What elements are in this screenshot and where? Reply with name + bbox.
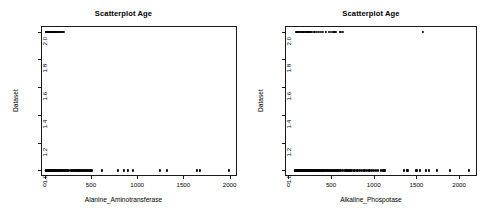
x-axis-title-left: Alanine_Aminotransferase bbox=[0, 196, 247, 203]
y-tick-left bbox=[38, 170, 41, 171]
x-tick-label-left: 1000 bbox=[130, 181, 144, 188]
x-tick-right bbox=[374, 176, 375, 179]
y-tick-left bbox=[38, 87, 41, 88]
y-tick-label-left: 2.0 bbox=[41, 36, 48, 45]
x-tick-right bbox=[416, 176, 417, 179]
chart-panel-right: Scatterplot Age Alkaline_Phospotase Data… bbox=[247, 0, 495, 214]
y-tick-label-right: 1.2 bbox=[285, 147, 292, 156]
y-tick-label-right: 1.0 bbox=[285, 175, 292, 184]
y-axis-title-left: Dataset bbox=[12, 89, 19, 112]
y-tick-label-right: 1.8 bbox=[285, 64, 292, 73]
y-tick-label-left: 1.0 bbox=[41, 175, 48, 184]
y-tick-left bbox=[38, 115, 41, 116]
y-tick-label-left: 1.2 bbox=[41, 147, 48, 156]
y-tick-label-left: 1.8 bbox=[41, 64, 48, 73]
x-tick-label-left: 1500 bbox=[176, 181, 190, 188]
y-tick-label-right: 2.0 bbox=[285, 36, 292, 45]
y-tick-right bbox=[282, 59, 285, 60]
plot-area-left bbox=[41, 26, 237, 176]
y-tick-right bbox=[282, 170, 285, 171]
y-tick-right bbox=[282, 115, 285, 116]
y-tick-left bbox=[38, 32, 41, 33]
y-axis-title-right: Dataset bbox=[257, 89, 264, 112]
x-tick-right bbox=[459, 176, 460, 179]
x-tick-label-left: 2000 bbox=[223, 181, 237, 188]
x-tick-label-left: 500 bbox=[86, 181, 96, 188]
x-tick-label-right: 1500 bbox=[410, 181, 424, 188]
x-tick-left bbox=[230, 176, 231, 179]
plot-area-right bbox=[285, 26, 477, 176]
y-tick-right bbox=[282, 87, 285, 88]
chart-title-right: Scatterplot Age bbox=[247, 9, 495, 18]
y-tick-label-left: 1.6 bbox=[41, 92, 48, 101]
y-tick-label-right: 1.4 bbox=[285, 120, 292, 129]
y-tick-label-right: 1.6 bbox=[285, 92, 292, 101]
x-tick-right bbox=[331, 176, 332, 179]
x-axis-title-right: Alkaline_Phospotase bbox=[247, 196, 495, 203]
x-tick-label-right: 2000 bbox=[452, 181, 466, 188]
y-tick-left bbox=[38, 59, 41, 60]
x-tick-label-right: 500 bbox=[326, 181, 336, 188]
y-tick-label-left: 1.4 bbox=[41, 120, 48, 129]
chart-panel-left: Scatterplot Age Alanine_Aminotransferase… bbox=[0, 0, 247, 214]
y-tick-left bbox=[38, 143, 41, 144]
x-tick-label-right: 1000 bbox=[367, 181, 381, 188]
y-tick-right bbox=[282, 143, 285, 144]
x-tick-left bbox=[137, 176, 138, 179]
chart-title-left: Scatterplot Age bbox=[0, 9, 247, 18]
x-tick-left bbox=[91, 176, 92, 179]
x-tick-left bbox=[183, 176, 184, 179]
scatterplot-figure: Scatterplot Age Alanine_Aminotransferase… bbox=[0, 0, 495, 214]
y-tick-right bbox=[282, 32, 285, 33]
